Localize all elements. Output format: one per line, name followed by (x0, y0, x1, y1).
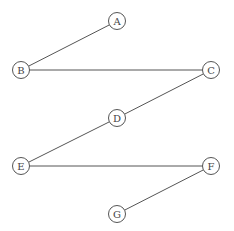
node-f: F (203, 158, 220, 175)
edge-c-d (117, 70, 211, 118)
node-label: D (113, 113, 121, 124)
edge-d-e (21, 118, 117, 166)
edge-f-g (117, 166, 211, 214)
edge-a-b (21, 21, 117, 70)
node-label: F (208, 161, 215, 172)
node-e: E (13, 158, 30, 175)
node-a: A (109, 13, 126, 30)
node-g: G (109, 206, 126, 223)
node-label: B (17, 65, 24, 76)
node-c: C (203, 62, 220, 79)
node-d: D (109, 110, 126, 127)
node-label: A (112, 16, 121, 27)
node-label: G (113, 209, 121, 220)
graph-diagram: A B C D E F G (0, 0, 234, 231)
node-label: C (207, 65, 215, 76)
node-b: B (13, 62, 30, 79)
node-label: E (17, 161, 24, 172)
nodes: A B C D E F G (13, 13, 220, 223)
